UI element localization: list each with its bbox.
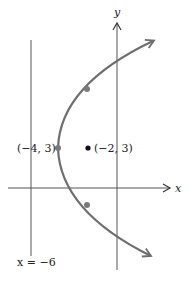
y-axis-label: y [113, 6, 121, 19]
directrix-label: x = −6 [17, 256, 56, 269]
vertex-point [55, 145, 61, 151]
vertex-label: (−4, 3) [17, 142, 56, 155]
parabola-diagram: x y x = −6 (−4, 3) (−2, 3) [0, 0, 194, 286]
focus-label: (−2, 3) [94, 142, 133, 155]
latus-point-upper [84, 86, 90, 92]
x-axis-label: x [175, 182, 182, 195]
latus-point-lower [84, 202, 90, 208]
focus-point [85, 145, 90, 150]
parabola-curve-top-arrow [58, 41, 154, 149]
